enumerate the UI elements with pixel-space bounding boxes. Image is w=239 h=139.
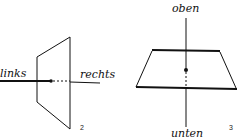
center-point xyxy=(49,79,53,83)
label-unten: unten xyxy=(171,127,203,139)
label-rechts: rechts xyxy=(80,68,115,81)
figure-number-2: 2 xyxy=(80,124,84,131)
trapezoid-top-edge xyxy=(152,50,220,51)
trapezoid-right-edge xyxy=(220,52,236,88)
trapezoid-vertical xyxy=(37,37,70,129)
axis-right xyxy=(70,82,100,83)
diagram-canvas: links rechts 2 oben unten 3 xyxy=(0,0,239,139)
figure-3: oben unten 3 xyxy=(136,2,237,139)
figure-2: links rechts 2 xyxy=(0,37,115,131)
figure-number-3: 3 xyxy=(229,124,233,131)
label-oben: oben xyxy=(172,2,199,15)
trapezoid-bottom-edge xyxy=(136,87,237,89)
label-links: links xyxy=(0,67,27,80)
trapezoid-left-edge xyxy=(136,51,152,87)
center-point xyxy=(184,68,188,72)
